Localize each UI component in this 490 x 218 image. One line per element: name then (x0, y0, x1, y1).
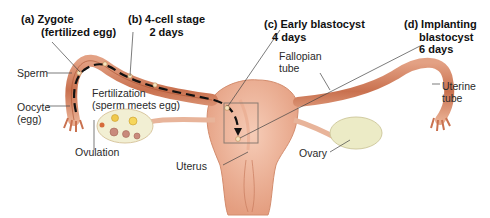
fallopian-tube-label: Fallopian tube (279, 50, 322, 74)
uterine-tube-label: Uterine tube (442, 80, 476, 104)
uterine-tube-label-line2: tube (442, 92, 476, 104)
stage-b-subtitle: 2 days (128, 26, 205, 39)
left-ovary (97, 109, 153, 143)
right-ovary (330, 117, 382, 149)
fallopian-label-line1: Fallopian (279, 50, 322, 62)
fallopian-label-line2: tube (279, 62, 322, 74)
stage-d-time: 6 days (404, 43, 477, 56)
uterus-label: Uterus (176, 160, 207, 172)
stage-b-label: (b) 4-cell stage 2 days (128, 13, 205, 38)
stage-d-subtitle: blastocyst (404, 31, 477, 44)
fertilization-label: Fertilization (sperm meets egg) (92, 87, 180, 111)
oocyte-label: Oocyte (egg) (17, 101, 50, 125)
stage-d-label: (d) Implanting blastocyst 6 days (404, 18, 477, 56)
stage-a-title: (a) Zygote (21, 13, 116, 26)
fertilization-label-line2: (sperm meets egg) (92, 99, 180, 111)
diagram-canvas: (a) Zygote (fertilized egg) (b) 4-cell s… (0, 0, 490, 218)
stage-c-title: (c) Early blastocyst (264, 18, 365, 31)
sperm-label: Sperm (17, 67, 48, 79)
oocyte-label-line2: (egg) (17, 113, 50, 125)
stage-a-subtitle: (fertilized egg) (21, 26, 116, 39)
stage-a-label: (a) Zygote (fertilized egg) (21, 13, 116, 38)
stage-c-subtitle: 4 days (264, 31, 365, 44)
ovulation-label: Ovulation (75, 146, 119, 158)
uterine-tube-label-line1: Uterine (442, 80, 476, 92)
stage-d-title: (d) Implanting (404, 18, 477, 31)
uterus-shape (207, 80, 298, 215)
stage-b-title: (b) 4-cell stage (128, 13, 205, 26)
stage-c-label: (c) Early blastocyst 4 days (264, 18, 365, 43)
fertilization-label-line1: Fertilization (92, 87, 180, 99)
ovary-label: Ovary (299, 147, 327, 159)
oocyte-label-line1: Oocyte (17, 101, 50, 113)
